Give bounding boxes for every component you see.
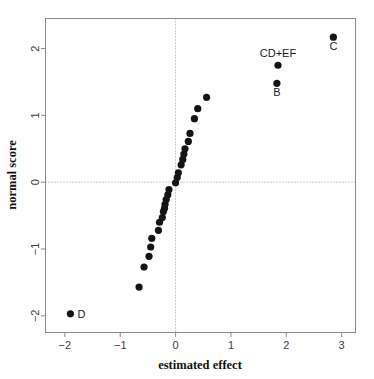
data-point-label: C <box>329 40 337 52</box>
plot-canvas: −2−10123 −2−1012 DBCD+EFC estimated effe… <box>0 0 374 379</box>
y-tick-label: 1 <box>30 112 42 118</box>
data-point <box>165 186 172 193</box>
x-tick-label: 1 <box>228 339 234 351</box>
data-point <box>135 283 142 290</box>
data-point <box>194 105 201 112</box>
plot-frame <box>46 19 356 333</box>
data-point-label: D <box>77 308 85 320</box>
y-tick-label: 2 <box>30 46 42 52</box>
data-point <box>155 227 162 234</box>
x-tick-label: 3 <box>339 339 345 351</box>
data-point <box>67 310 74 317</box>
data-point <box>181 145 188 152</box>
data-point <box>203 94 210 101</box>
x-tick-label: −2 <box>59 339 72 351</box>
data-point <box>147 243 154 250</box>
data-points <box>67 34 337 318</box>
y-axis-ticks: −2−1012 <box>30 46 46 323</box>
data-point <box>175 169 182 176</box>
data-point <box>185 138 192 145</box>
y-axis-title: normal score <box>5 140 19 210</box>
reference-lines <box>46 19 356 333</box>
y-tick-label: −1 <box>30 243 42 256</box>
y-tick-label: 0 <box>30 179 42 185</box>
data-point-label: B <box>273 86 280 98</box>
data-point <box>186 130 193 137</box>
data-point <box>148 235 155 242</box>
data-point-label: CD+EF <box>260 47 297 59</box>
data-point <box>145 253 152 260</box>
y-tick-label: −2 <box>30 310 42 323</box>
normal-probability-plot-figure: −2−10123 −2−1012 DBCD+EFC estimated effe… <box>0 0 374 379</box>
data-point <box>159 214 166 221</box>
data-point <box>274 62 281 69</box>
point-labels: DBCD+EFC <box>77 40 337 320</box>
x-tick-label: 0 <box>173 339 179 351</box>
x-axis-ticks: −2−10123 <box>59 333 345 351</box>
axes-frame <box>46 19 356 333</box>
x-tick-label: 2 <box>283 339 289 351</box>
x-axis-title: estimated effect <box>158 358 242 372</box>
data-point <box>191 115 198 122</box>
data-point <box>140 263 147 270</box>
x-tick-label: −1 <box>114 339 127 351</box>
